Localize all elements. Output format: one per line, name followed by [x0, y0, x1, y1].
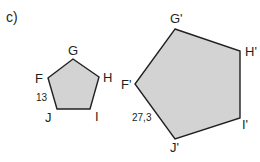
side-length-large: 27,3: [132, 112, 152, 123]
vertex-label-j-prime: J': [170, 140, 179, 155]
vertex-label-f-prime: F': [121, 77, 131, 92]
part-label: c): [6, 9, 18, 25]
vertex-label-g-prime: G': [170, 11, 183, 26]
diagram-canvas: c) G H I J F 13 G' H' I' J' F' 27,3: [0, 0, 260, 162]
vertex-label-f: F: [35, 71, 43, 86]
vertex-label-i: I: [95, 109, 99, 124]
vertex-label-i-prime: I': [242, 117, 248, 132]
side-length-small: 13: [36, 92, 48, 103]
vertex-label-j: J: [45, 110, 52, 125]
vertex-label-h-prime: H': [245, 44, 257, 59]
vertex-label-g: G: [68, 43, 78, 58]
small-pentagon: [48, 59, 99, 109]
vertex-label-h: H: [103, 70, 112, 85]
